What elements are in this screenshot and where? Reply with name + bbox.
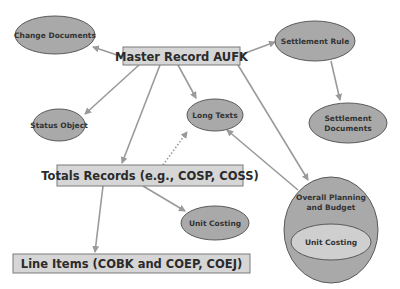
settlement-documents-label-2: Documents — [324, 124, 372, 133]
settlement-rule-node[interactable]: Settlement Rule — [275, 21, 355, 61]
unit-costing-label: Unit Costing — [189, 219, 241, 228]
long-texts-node[interactable]: Long Texts — [187, 99, 243, 131]
edge-master-to-long-texts — [178, 65, 196, 98]
unit-costing-node[interactable]: Unit Costing — [181, 206, 249, 240]
totals-records-label: Totals Records (e.g., COSP, COSS) — [41, 169, 259, 183]
overall-planning-node[interactable]: Overall Planning and Budget Unit Costing — [284, 177, 378, 283]
line-items-label: Line Items (COBK and COEP, COEJ) — [21, 257, 242, 271]
long-texts-label: Long Texts — [192, 111, 238, 120]
change-documents-label: Change Documents — [14, 31, 96, 40]
overall-planning-label-1: Overall Planning — [296, 193, 366, 202]
edge-master-to-overall-planning — [238, 65, 308, 180]
overall-unit-costing-node[interactable]: Unit Costing — [291, 224, 371, 260]
settlement-documents-label-1: Settlement — [324, 114, 372, 123]
settlement-documents-node[interactable]: Settlement Documents — [309, 103, 387, 143]
edge-settlement-rule-to-documents — [331, 61, 340, 100]
line-items-node[interactable]: Line Items (COBK and COEP, COEJ) — [13, 254, 250, 273]
master-record-label: Master Record AUFK — [115, 50, 249, 64]
totals-records-node[interactable]: Totals Records (e.g., COSP, COSS) — [41, 165, 259, 186]
settlement-rule-label: Settlement Rule — [281, 37, 350, 46]
edge-master-to-status-object — [85, 65, 139, 114]
change-documents-node[interactable]: Change Documents — [14, 16, 96, 54]
edge-totals-to-long-texts — [163, 132, 187, 165]
edge-master-to-totals — [122, 65, 160, 163]
edge-totals-to-unit-costing — [143, 186, 185, 211]
edge-totals-to-line-items — [95, 186, 103, 252]
overall-planning-label-2: and Budget — [307, 203, 356, 212]
overall-unit-costing-label: Unit Costing — [305, 238, 357, 247]
master-record-node[interactable]: Master Record AUFK — [115, 47, 249, 65]
diagram-canvas: Master Record AUFK Change Documents Sett… — [0, 0, 400, 289]
status-object-node[interactable]: Status Object — [30, 109, 88, 141]
status-object-label: Status Object — [30, 121, 88, 130]
